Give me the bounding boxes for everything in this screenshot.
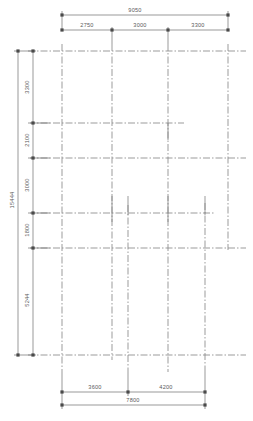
top-span-3-label: 3300 — [191, 23, 204, 29]
top-span-2-label: 3000 — [133, 23, 146, 29]
grid-stubs — [112, 123, 205, 222]
drawing-canvas: 9050 2750 3000 3300 15444 3300 2100 3000… — [0, 0, 253, 421]
left-span-5-label: 5244 — [25, 293, 31, 306]
bottom-span-2-label: 4200 — [159, 385, 172, 391]
bottom-span-1-label: 3600 — [88, 385, 101, 391]
left-span-4-label: 1800 — [25, 223, 31, 236]
grid-lines — [28, 44, 246, 372]
left-span-3-label: 3000 — [25, 178, 31, 191]
left-span-1-label: 3300 — [25, 80, 31, 93]
bottom-dimension-group — [62, 372, 205, 409]
bottom-overall-dimension-label: 7800 — [126, 398, 139, 404]
left-span-2-label: 2100 — [25, 133, 31, 146]
top-overall-dimension-label: 9050 — [128, 8, 141, 14]
left-overall-dimension-label: 15444 — [10, 192, 16, 209]
top-span-1-label: 2750 — [80, 23, 93, 29]
grid-plan-svg — [0, 0, 253, 421]
left-dimension-ticks — [16, 49, 34, 356]
left-dimension-group — [14, 51, 50, 355]
